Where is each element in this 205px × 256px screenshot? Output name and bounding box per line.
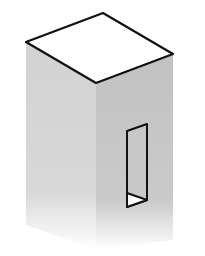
pillar-illustration (0, 0, 205, 256)
window-opening (127, 124, 147, 207)
pillar-diagram (0, 0, 205, 256)
